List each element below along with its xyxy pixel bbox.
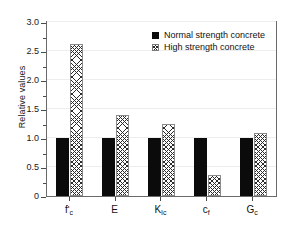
x-axis-tick-label: f'c bbox=[46, 204, 92, 216]
x-axis-tick-mark bbox=[160, 197, 161, 201]
bar-high-strength bbox=[208, 175, 221, 196]
x-axis-tick-label: Gc bbox=[229, 204, 275, 216]
x-axis-tick-label: KIc bbox=[138, 204, 184, 216]
bar-normal-strength bbox=[148, 138, 161, 196]
x-axis-tick-mark bbox=[252, 197, 253, 201]
y-axis-ticks: 00.51.01.52.02.53.0 bbox=[0, 21, 46, 197]
y-axis-tick-label: 2.5 bbox=[26, 46, 39, 56]
bar-group bbox=[47, 22, 93, 196]
y-axis-tick-label: 1.5 bbox=[26, 104, 39, 114]
figure: Relative values 00.51.01.52.02.53.0 Norm… bbox=[0, 0, 289, 229]
x-axis-tick-label: cf bbox=[183, 204, 229, 216]
legend-swatch-normal-strength-concrete bbox=[152, 32, 159, 39]
legend-swatch-high-strength-concrete bbox=[152, 44, 159, 51]
plot-area: Normal strength concrete High strength c… bbox=[46, 21, 277, 197]
x-axis: f'cEKIccfGc bbox=[46, 197, 277, 229]
bar-high-strength bbox=[116, 115, 129, 196]
legend-label: Normal strength concrete bbox=[164, 30, 265, 40]
x-axis-tick-mark bbox=[69, 197, 70, 201]
y-axis-tick-label: 0 bbox=[34, 191, 39, 201]
bar-high-strength bbox=[70, 44, 83, 196]
x-axis-tick-label: E bbox=[92, 204, 138, 215]
legend-label: High strength concrete bbox=[164, 42, 255, 52]
bar-high-strength bbox=[254, 133, 267, 196]
bar-group bbox=[93, 22, 139, 196]
y-axis-tick-label: 2.0 bbox=[26, 75, 39, 85]
x-axis-tick-mark bbox=[115, 197, 116, 201]
bar-normal-strength bbox=[240, 138, 253, 196]
legend: Normal strength concrete High strength c… bbox=[152, 30, 265, 52]
bar-normal-strength bbox=[194, 138, 207, 196]
bar-high-strength bbox=[162, 124, 175, 196]
x-axis-tick-mark bbox=[206, 197, 207, 201]
y-axis-tick-label: 1.0 bbox=[26, 133, 39, 143]
legend-item: High strength concrete bbox=[152, 42, 265, 52]
bar-normal-strength bbox=[102, 138, 115, 196]
bar-normal-strength bbox=[56, 138, 69, 196]
y-axis-tick-label: 3.0 bbox=[26, 17, 39, 27]
y-axis-tick-label: 0.5 bbox=[26, 162, 39, 172]
legend-item: Normal strength concrete bbox=[152, 30, 265, 40]
